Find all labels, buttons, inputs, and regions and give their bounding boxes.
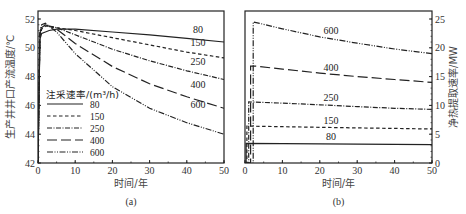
curve-label: 80	[326, 131, 336, 142]
curve-label: 600	[190, 99, 205, 110]
curve-label: 400	[324, 62, 339, 73]
legend-entry-label: 600	[90, 148, 105, 158]
curve-label: 250	[190, 56, 205, 67]
y-tick-label: 0	[435, 158, 440, 169]
panel-caption: (a)	[125, 196, 136, 208]
x-axis-title: 时间/年	[322, 177, 355, 189]
legend-entry-label: 80	[90, 100, 100, 110]
y-tick-label: 20	[435, 42, 445, 53]
figure: 0102030405042444648505280150250400600注采速…	[0, 0, 466, 214]
y-tick-label: 52	[25, 14, 35, 25]
x-tick-label: 30	[145, 165, 155, 176]
panel-b: 01020304050051015202560040025015080时间/年(…	[243, 11, 460, 208]
series-line-250	[245, 102, 432, 163]
y-tick-label: 5	[435, 129, 440, 140]
x-tick-label: 30	[352, 165, 362, 176]
curve-label: 150	[324, 115, 339, 126]
x-axis-title: 时间/年	[114, 177, 147, 189]
curve-label: 400	[190, 79, 205, 90]
legend-title: 注采速率/(m³/h)	[46, 89, 119, 100]
y-tick-label: 42	[25, 158, 35, 169]
x-tick-label: 40	[390, 165, 400, 176]
legend: 注采速率/(m³/h)80150250400600	[46, 89, 119, 158]
x-tick-label: 0	[243, 165, 248, 176]
legend-entry-label: 400	[90, 136, 105, 146]
y-tick-label: 10	[435, 100, 445, 111]
y-axis-title: 生产井井口产流温度/℃	[4, 35, 16, 140]
curve-label: 150	[190, 37, 205, 48]
x-tick-label: 10	[70, 165, 80, 176]
curve-label: 250	[324, 92, 339, 103]
curve-label: 80	[193, 24, 203, 35]
series-line-80	[245, 143, 432, 163]
y-axis-title: 净热提取速率/MW	[447, 46, 459, 128]
panel-a: 0102030405042444648505280150250400600注采速…	[4, 11, 229, 208]
x-tick-label: 40	[182, 165, 192, 176]
curve-label: 600	[324, 25, 339, 36]
y-tick-label: 46	[25, 100, 35, 111]
chart-canvas: 0102030405042444648505280150250400600注采速…	[0, 0, 466, 214]
x-tick-label: 20	[107, 165, 117, 176]
y-tick-label: 50	[25, 42, 35, 53]
y-tick-label: 25	[435, 14, 445, 25]
legend-entry-label: 150	[90, 112, 105, 122]
x-tick-label: 20	[315, 165, 325, 176]
x-tick-label: 0	[36, 165, 41, 176]
x-tick-label: 50	[219, 165, 229, 176]
x-tick-label: 10	[277, 165, 287, 176]
y-tick-label: 44	[25, 129, 35, 140]
legend-entry-label: 250	[90, 124, 105, 134]
panel-caption: (b)	[333, 196, 345, 208]
y-tick-label: 48	[25, 71, 35, 82]
y-tick-label: 15	[435, 71, 445, 82]
